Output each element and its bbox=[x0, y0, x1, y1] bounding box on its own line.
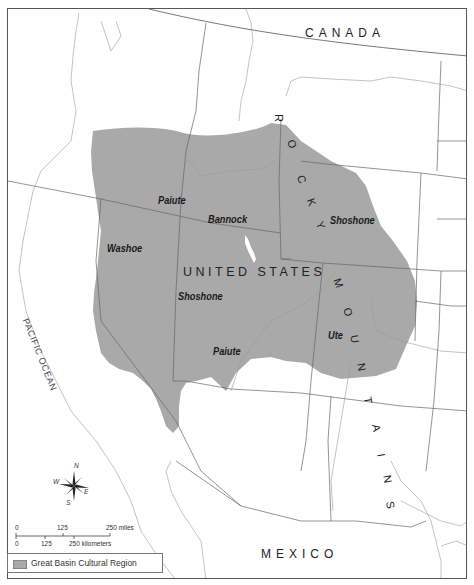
scale-miles-250: 250 miles bbox=[106, 524, 134, 531]
legend-swatch-great-basin bbox=[13, 560, 27, 569]
scale-km-250: 250 kilometers bbox=[69, 540, 111, 547]
scale-miles-125: 125 bbox=[57, 524, 68, 531]
compass-w: W bbox=[53, 478, 59, 485]
label-tribe-paiute-south: Paiute bbox=[213, 345, 241, 357]
label-tribe-ute: Ute bbox=[328, 329, 343, 341]
legend: Great Basin Cultural Region bbox=[7, 553, 163, 573]
compass-rose: N S E W bbox=[56, 468, 92, 504]
scale-miles-0: 0 bbox=[15, 524, 19, 531]
label-tribe-paiute-north: Paiute bbox=[158, 194, 186, 206]
legend-label-great-basin: Great Basin Cultural Region bbox=[31, 558, 137, 568]
label-united-states: UNITED STATES bbox=[183, 265, 325, 279]
label-tribe-bannock: Bannock bbox=[208, 213, 247, 225]
scale-bar: 0 125 250 miles 0 125 250 kilometers bbox=[13, 524, 143, 548]
label-tribe-shoshone-west: Shoshone bbox=[178, 290, 223, 302]
scale-km-125: 125 bbox=[41, 540, 52, 547]
compass-n: N bbox=[74, 462, 79, 469]
label-tribe-shoshone-east: Shoshone bbox=[330, 214, 375, 226]
compass-s: S bbox=[66, 499, 70, 506]
scale-km-0: 0 bbox=[15, 540, 19, 547]
compass-icon bbox=[56, 468, 92, 504]
label-tribe-washoe: Washoe bbox=[107, 242, 142, 254]
compass-e: E bbox=[84, 488, 88, 495]
label-canada: CANADA bbox=[305, 26, 385, 40]
label-rocky-mountains-letter: R bbox=[273, 114, 285, 122]
label-mexico: MEXICO bbox=[261, 547, 338, 561]
